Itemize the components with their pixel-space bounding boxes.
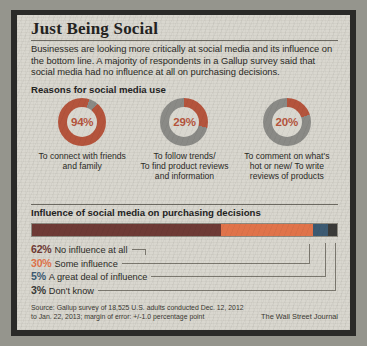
caption-line: To connect with friends <box>31 151 133 161</box>
legend-label: Don't know <box>49 286 94 296</box>
caption-line: and information <box>133 171 235 181</box>
donut-value-label: 20% <box>263 98 311 146</box>
infographic-card: Just Being Social Businesses are looking… <box>11 10 356 336</box>
leader-line <box>132 249 146 250</box>
page-title: Just Being Social <box>31 19 338 39</box>
bar-legend: 62% No influence at all 30% Some influen… <box>31 243 338 297</box>
section-heading-reasons: Reasons for social media use <box>31 84 338 95</box>
stacked-bar-chart <box>31 223 338 237</box>
donut-ring-29: 29% <box>160 98 208 146</box>
caption-line: reviews of products <box>236 171 338 181</box>
donut-chart-group: 94% To connect with friends and family 2… <box>31 98 338 203</box>
donut-value-label: 94% <box>58 98 106 146</box>
legend-value: 5% <box>31 270 46 282</box>
caption-line: To follow trends/ <box>133 151 235 161</box>
screenshot-frame: Just Being Social Businesses are looking… <box>0 0 367 346</box>
section-heading-influence: Influence of social media on purchasing … <box>31 207 338 218</box>
bar-segment-some-influence <box>221 224 313 236</box>
footer: Source: Gallup survey of 18,525 U.S. adu… <box>31 304 338 321</box>
donut-ring-94: 94% <box>58 98 106 146</box>
legend-value: 3% <box>31 284 46 296</box>
bar-segment-great-deal <box>313 224 328 236</box>
legend-row: 30% Some influence <box>31 257 338 271</box>
legend-label: Some influence <box>54 259 117 269</box>
donut-caption: To follow trends/ To find product review… <box>133 151 235 181</box>
leader-line <box>151 276 326 277</box>
source-note: Source: Gallup survey of 18,525 U.S. adu… <box>31 304 246 321</box>
leader-line <box>122 263 310 264</box>
caption-line: To comment on what's <box>236 151 338 161</box>
donut-caption: To connect with friends and family <box>31 151 133 171</box>
bar-segment-dont-know <box>328 224 337 236</box>
donut-caption: To comment on what's hot or new/ To writ… <box>236 151 338 181</box>
legend-row: 5% A great deal of influence <box>31 270 338 284</box>
legend-value: 30% <box>31 257 51 269</box>
title-divider <box>31 40 338 41</box>
donut-item: 20% To comment on what's hot or new/ To … <box>236 98 338 203</box>
legend-label: No influence at all <box>54 245 127 255</box>
caption-line: To find product reviews <box>133 161 235 171</box>
attribution: The Wall Street Journal <box>261 312 338 321</box>
bar-segment-no-influence <box>32 224 221 236</box>
deck-text: Businesses are looking more critically a… <box>31 43 338 78</box>
donut-value-label: 29% <box>160 98 208 146</box>
caption-line: and family <box>31 161 133 171</box>
section-divider <box>31 204 338 205</box>
donut-item: 94% To connect with friends and family <box>31 98 133 203</box>
infographic-page: Just Being Social Businesses are looking… <box>17 15 350 330</box>
legend-row: 62% No influence at all <box>31 243 338 257</box>
legend-value: 62% <box>31 243 51 255</box>
donut-item: 29% To follow trends/ To find product re… <box>133 98 235 203</box>
caption-line: hot or new/ To write <box>236 161 338 171</box>
legend-row: 3% Don't know <box>31 284 338 298</box>
donut-ring-20: 20% <box>263 98 311 146</box>
leader-line <box>98 290 336 291</box>
legend-label: A great deal of influence <box>49 272 148 282</box>
